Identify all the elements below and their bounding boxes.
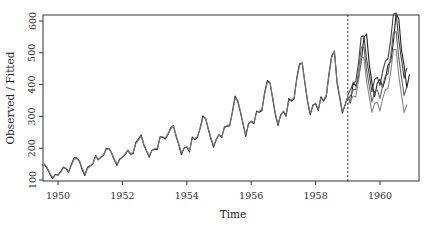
x-axis: 195019521954195619581960: [46, 181, 392, 201]
x-axis-label: Time: [220, 208, 247, 220]
y-tick-label: 100: [27, 171, 38, 189]
time-series-chart: 100200300400500600 195019521954195619581…: [0, 0, 426, 228]
y-tick-label: 400: [27, 76, 38, 94]
x-tick-label: 1956: [239, 190, 263, 201]
y-axis: 100200300400500600: [27, 12, 44, 189]
plot-frame: [43, 15, 419, 181]
x-tick-label: 1952: [110, 190, 134, 201]
x-tick-label: 1960: [368, 190, 392, 201]
y-tick-label: 300: [27, 107, 38, 125]
x-tick-label: 1950: [46, 190, 70, 201]
y-tick-label: 600: [27, 12, 38, 30]
series-lines: [42, 13, 410, 179]
y-tick-label: 500: [27, 44, 38, 62]
y-tick-label: 200: [27, 139, 38, 157]
x-tick-label: 1954: [175, 190, 199, 201]
y-axis-label: Observed / Fitted: [4, 51, 16, 144]
series-line-fitted: [42, 51, 351, 178]
x-tick-label: 1958: [304, 190, 328, 201]
